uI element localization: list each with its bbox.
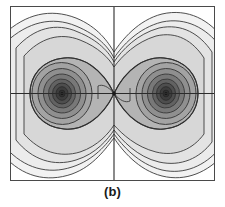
- figure-caption: (b): [0, 184, 225, 199]
- figure-panel: (b): [0, 0, 225, 207]
- saddle-point: [112, 92, 116, 96]
- contour-plot-svg: [10, 6, 215, 181]
- contour-plot: [10, 6, 215, 181]
